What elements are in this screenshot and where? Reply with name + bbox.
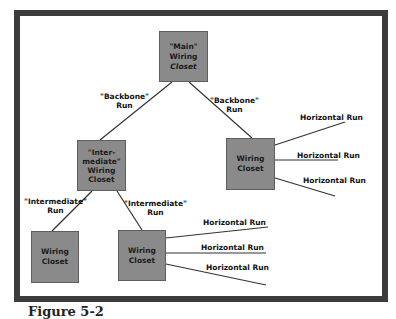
node-label: mediate" bbox=[82, 157, 120, 166]
intermediate-right-label: "Intermediate" Run bbox=[124, 199, 187, 217]
figure-caption: Figure 5-2 bbox=[28, 304, 104, 319]
bottom-mid-wiring-closet: Wiring Closet bbox=[118, 230, 166, 281]
intermediate-wiring-closet: "Inter- mediate" Wiring Closet bbox=[77, 140, 126, 191]
node-label: Closet bbox=[129, 256, 155, 266]
node-label: Wiring bbox=[41, 247, 69, 257]
node-label: Wiring bbox=[170, 52, 198, 62]
node-label: Wiring bbox=[237, 154, 265, 164]
horizontal-run-label: Horizontal Run bbox=[300, 113, 363, 122]
horizontal-run-label: Horizontal Run bbox=[206, 263, 269, 272]
intermediate-left-label: "Intermediate" Run bbox=[24, 197, 87, 215]
node-label: Wiring bbox=[88, 166, 116, 175]
horizontal-run-label: Horizontal Run bbox=[203, 218, 266, 227]
node-label: Wiring bbox=[128, 246, 156, 256]
horizontal-run-right-1 bbox=[275, 122, 345, 145]
node-label: Closet bbox=[170, 62, 196, 72]
right-wiring-closet: Wiring Closet bbox=[226, 138, 275, 190]
node-label: "Main" bbox=[169, 42, 197, 52]
node-label: "Inter- bbox=[88, 148, 116, 157]
horizontal-run-label: Horizontal Run bbox=[201, 243, 264, 252]
node-label: Closet bbox=[88, 175, 114, 184]
horizontal-run-mid-1 bbox=[166, 227, 268, 238]
main-wiring-closet: "Main" Wiring Closet bbox=[159, 31, 208, 82]
bottom-left-wiring-closet: Wiring Closet bbox=[31, 231, 79, 283]
horizontal-run-label: Horizontal Run bbox=[303, 176, 366, 185]
backbone-left-label: "Backbone" Run bbox=[100, 92, 149, 110]
node-label: Closet bbox=[237, 164, 263, 174]
backbone-left-line bbox=[100, 82, 172, 140]
horizontal-run-label: Horizontal Run bbox=[297, 151, 360, 160]
node-label: Closet bbox=[42, 257, 68, 267]
backbone-right-label: "Backbone" Run bbox=[210, 96, 259, 114]
